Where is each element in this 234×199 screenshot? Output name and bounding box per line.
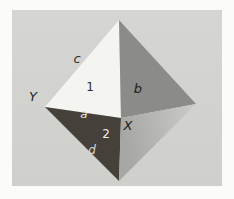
edge-label-d: d	[88, 143, 96, 157]
vertex-label-X: X	[123, 118, 134, 133]
face-label-2: 2	[102, 127, 110, 141]
edge-label-a: a	[80, 107, 87, 121]
figure-page: c Y 1 b a X 2 d	[0, 0, 234, 199]
face-label-b: b	[134, 81, 142, 96]
face-label-1: 1	[86, 80, 94, 94]
edge-label-c: c	[73, 51, 80, 66]
vertex-label-Y: Y	[29, 89, 38, 104]
octahedron-figure: c Y 1 b a X 2 d	[0, 0, 234, 199]
